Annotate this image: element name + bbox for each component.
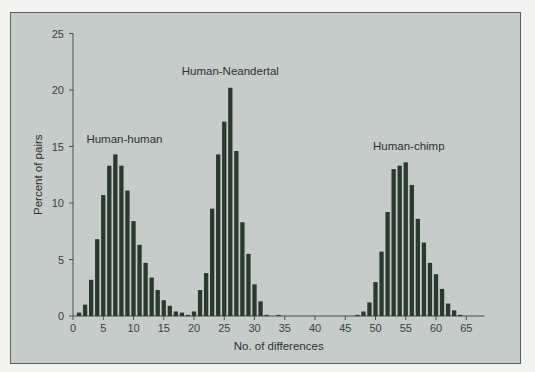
- x-tick-label: 55: [400, 322, 412, 334]
- histogram-bar: [143, 263, 147, 316]
- y-tick-label: 5: [58, 254, 64, 266]
- histogram-bar: [398, 166, 402, 316]
- histogram-bar: [131, 221, 135, 316]
- y-tick-label: 0: [58, 310, 64, 322]
- histogram-bar: [174, 311, 178, 316]
- x-tick-label: 5: [100, 322, 106, 334]
- histogram-bar: [180, 313, 184, 316]
- histogram-bar: [192, 311, 196, 316]
- histogram-bar: [125, 191, 129, 316]
- x-tick-label: 20: [188, 322, 200, 334]
- histogram-bar: [452, 310, 456, 316]
- histogram-bar: [428, 263, 432, 316]
- histogram-bar: [186, 315, 190, 316]
- histogram-bar: [385, 212, 389, 316]
- histogram-bar: [422, 243, 426, 316]
- y-tick-label: 20: [52, 84, 64, 96]
- histogram-bar: [83, 305, 87, 316]
- histogram-bar: [137, 245, 141, 316]
- series-annotation: Human-human: [86, 133, 162, 145]
- histogram-bar: [392, 169, 396, 316]
- histogram-bar: [168, 306, 172, 316]
- histogram-bar: [162, 300, 166, 316]
- x-tick-label: 60: [430, 322, 442, 334]
- histogram-bar: [355, 315, 359, 316]
- histogram-bar: [240, 222, 244, 316]
- y-axis-label: Percent of pairs: [32, 134, 44, 215]
- histogram-bar: [264, 315, 268, 316]
- histogram-bar: [404, 162, 408, 316]
- histogram-bar: [228, 88, 232, 316]
- x-tick-label: 15: [158, 322, 170, 334]
- histogram-bar: [77, 313, 81, 316]
- series-annotation: Human-chimp: [373, 140, 445, 152]
- histogram-bar: [216, 154, 220, 316]
- histogram-bar: [277, 315, 281, 316]
- x-tick-label: 40: [309, 322, 321, 334]
- histogram-bar: [222, 122, 226, 316]
- histogram-bar: [446, 304, 450, 316]
- x-tick-label: 65: [460, 322, 472, 334]
- histogram-bar: [258, 301, 262, 316]
- histogram-chart: 051015202505101520253035404550556065No. …: [0, 0, 535, 372]
- histogram-bar: [234, 151, 238, 316]
- x-axis-label: No. of differences: [234, 340, 324, 352]
- histogram-bar: [458, 315, 462, 316]
- histogram-bar: [252, 284, 256, 316]
- histogram-bar: [119, 166, 123, 316]
- x-tick-label: 10: [127, 322, 139, 334]
- histogram-bar: [101, 195, 105, 316]
- y-tick-label: 10: [52, 197, 64, 209]
- histogram-bar: [379, 252, 383, 316]
- histogram-bar: [198, 290, 202, 316]
- histogram-bar: [246, 254, 250, 316]
- histogram-bar: [367, 302, 371, 316]
- histogram-bar: [210, 209, 214, 316]
- x-tick-label: 25: [218, 322, 230, 334]
- x-tick-label: 0: [70, 322, 76, 334]
- histogram-bar: [89, 280, 93, 316]
- histogram-bar: [150, 278, 154, 316]
- y-tick-label: 25: [52, 28, 64, 40]
- histogram-bar: [416, 219, 420, 316]
- series-annotation: Human-Neandertal: [182, 65, 279, 77]
- histogram-bar: [113, 154, 117, 316]
- histogram-bar: [410, 185, 414, 316]
- x-tick-label: 45: [339, 322, 351, 334]
- histogram-bar: [373, 282, 377, 316]
- histogram-bar: [440, 289, 444, 316]
- x-tick-label: 50: [369, 322, 381, 334]
- x-tick-label: 35: [279, 322, 291, 334]
- x-tick-label: 30: [248, 322, 260, 334]
- histogram-bar: [204, 273, 208, 316]
- histogram-bar: [156, 290, 160, 316]
- histogram-bar: [107, 166, 111, 316]
- histogram-bar: [95, 239, 99, 316]
- histogram-bar: [361, 311, 365, 316]
- y-tick-label: 15: [52, 141, 64, 153]
- histogram-bar: [434, 274, 438, 316]
